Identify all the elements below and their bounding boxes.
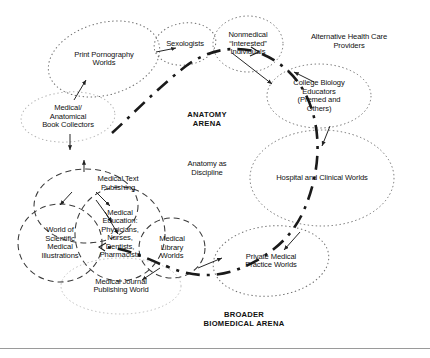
leader-lines: [60, 48, 330, 280]
world-ellipse-print-pornography-worlds: [39, 9, 168, 110]
world-ellipse-sexologists: [151, 19, 218, 69]
leader-into-private-practice: [198, 258, 222, 268]
world-ellipse-medical-anatomical-book-collectors: [19, 89, 116, 145]
leader-book-collectors: [74, 80, 86, 100]
world-ellipse-hospital-and-clinical-worlds: [250, 130, 394, 226]
diagram-canvas: [0, 0, 430, 358]
world-ellipse-medical-text-publishing-world: [34, 169, 138, 243]
world-ellipse-medical-library-worlds: [139, 218, 205, 278]
arena-boundary-curve: [104, 49, 318, 275]
world-ellipse-college-biology-educators: [267, 64, 371, 128]
world-ellipse-nonmedical-interested-individuals: [213, 16, 283, 72]
leader-sexologists: [156, 48, 176, 52]
world-ellipse-private-medical-practice-worlds: [210, 220, 333, 302]
social-worlds-diagram: Print Pornography WorldsSexologistsNonme…: [0, 0, 430, 358]
world-ellipse-layer: [18, 9, 394, 314]
leader-nonmedical-to-college: [232, 53, 272, 84]
leader-medical-text-publishing-a: [60, 192, 72, 205]
world-ellipse-medical-journal-publishing-world: [61, 258, 181, 314]
leader-college-to-hospital: [322, 126, 330, 146]
leader-into-medical-education: [96, 200, 112, 222]
boundary-arrowheads: [99, 47, 259, 251]
figure-bottom-rule: [0, 348, 430, 349]
leader-library-to-journal: [142, 268, 160, 280]
leader-medical-text-publishing-b: [96, 192, 110, 206]
leader-hospital-to-private: [284, 232, 300, 250]
world-ellipse-world-of-scientific-medical-illustrations: [18, 204, 102, 282]
leader-into-medical-education-2: [105, 212, 118, 234]
